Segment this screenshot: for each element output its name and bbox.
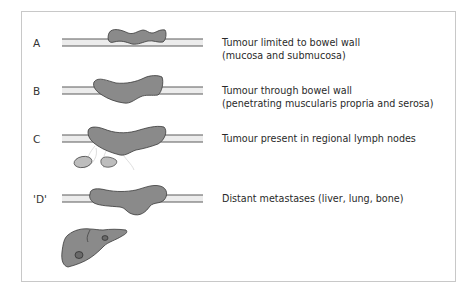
- liver-metastasis-2: [75, 252, 83, 259]
- stage-d-line1: Distant metastases (liver, lung, bone): [222, 192, 403, 205]
- lymph-node-2: [101, 157, 117, 167]
- stage-b-description: Tumour through bowel wall (penetrating m…: [222, 84, 433, 110]
- stage-label-a: A: [33, 37, 40, 49]
- stage-label-c: C: [33, 133, 40, 145]
- stage-a-description: Tumour limited to bowel wall (mucosa and…: [222, 36, 360, 62]
- lymph-node-1: [73, 155, 93, 169]
- stage-c-description: Tumour present in regional lymph nodes: [222, 132, 416, 145]
- stage-b-line1: Tumour through bowel wall: [222, 84, 433, 97]
- stage-b-tumour: [94, 76, 163, 104]
- stage-label-b: B: [33, 85, 40, 97]
- stage-a-line1: Tumour limited to bowel wall: [222, 36, 360, 49]
- stage-b-line2: (penetrating muscularis propria and sero…: [222, 97, 433, 110]
- stage-d-description: Distant metastases (liver, lung, bone): [222, 192, 403, 205]
- stage-d-tumour: [90, 185, 167, 214]
- stage-c-line1: Tumour present in regional lymph nodes: [222, 132, 416, 145]
- liver-metastasis-1: [102, 236, 108, 241]
- stage-label-d: 'D': [33, 193, 47, 205]
- stage-a-line2: (mucosa and submucosa): [222, 49, 360, 62]
- liver-icon: [62, 229, 127, 267]
- stage-c-tumour: [88, 126, 166, 155]
